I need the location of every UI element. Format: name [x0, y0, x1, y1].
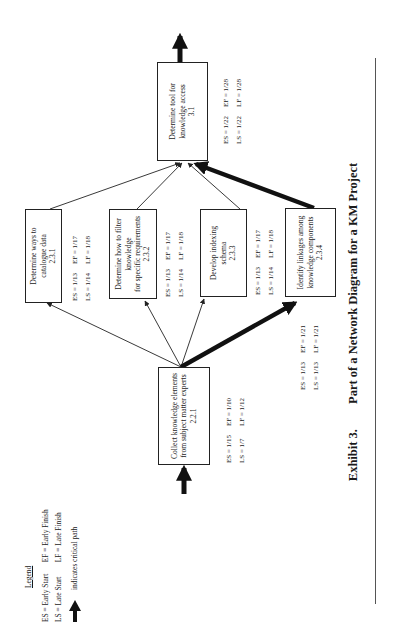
- node-2.3.3: Develop indexing schema 2.3.3: [200, 209, 247, 297]
- es-value: ES = 1/22: [220, 107, 233, 144]
- lf-value: LF = 1/21: [310, 325, 323, 353]
- node-2.3.1-dates: ES = 1/13EF = 1/17 LS = 1/14LF = 1/18: [69, 236, 95, 301]
- es-value: ES = 1/13: [69, 264, 82, 301]
- node-2.2.1-dates: ES = 1/15EF = 1/10 LS = 1/7LF = 1/12: [223, 398, 249, 463]
- legend: Legend ES = Early Start EF = Early Finis…: [22, 509, 81, 622]
- ls-value: LS = 1/22: [233, 107, 246, 144]
- node-2.2.1-code: 2.2.1: [189, 408, 198, 423]
- legend-row-start: ES = Early Start EF = Early Finish: [39, 509, 52, 622]
- node-2.3.4: Identify linkages among knowledge compon…: [285, 208, 336, 297]
- node-2.3.1-code: 2.3.1: [48, 248, 57, 263]
- node-2.3.4-code: 2.3.4: [315, 245, 324, 260]
- caption-rule: [375, 58, 376, 604]
- node-2.2.1-line-1: Collect knowledge elements: [170, 373, 179, 459]
- legend-critical-path-label: indicates critical path: [68, 527, 81, 590]
- node-2.3.4-line-2: knowledge components: [306, 217, 315, 289]
- edge-2.3.1-to-3.1: [50, 163, 180, 209]
- node-2.3.1-line-1: Determine ways to catalogue data: [29, 214, 48, 298]
- node-2.3.2-code: 2.3.2: [142, 246, 151, 261]
- es-value: ES = 1/15: [223, 426, 236, 463]
- node-3.1-code: 3.1: [187, 107, 196, 117]
- node-2.3.2-line-3: for specific requirements: [133, 216, 142, 292]
- thick-arrow-icon: [69, 600, 81, 622]
- legend-critical-path: indicates critical path: [68, 509, 81, 622]
- exhibit-caption: Exhibit 3. Part of a Network Diagram for…: [346, 0, 361, 644]
- node-2.3.3-line-1: Develop indexing schema: [209, 214, 228, 292]
- node-2.3.4-line-1: Identify linkages among: [296, 216, 305, 290]
- legend-ef: EF = Early Finish: [39, 509, 52, 562]
- node-2.2.1: Collect knowledge elements from subject …: [158, 367, 210, 465]
- ef-value: EF = 1/21: [297, 325, 310, 353]
- ef-value: EF = 1/17: [162, 232, 175, 260]
- ef-value: EF = 1/28: [220, 79, 233, 107]
- ls-value: LS = 1/14: [175, 260, 188, 297]
- ls-value: LS = 1/14: [82, 264, 95, 301]
- ef-value: EF = 1/17: [252, 230, 265, 258]
- node-2.3.1: Determine ways to catalogue data 2.3.1: [25, 209, 62, 303]
- exhibit-number: Exhibit 3.: [346, 429, 360, 481]
- es-value: ES = 1/13: [297, 353, 310, 390]
- es-value: ES = 1/13: [162, 260, 175, 297]
- node-2.3.3-dates: ES = 1/13EF = 1/17 LS = 1/14LF = 1/18: [252, 230, 278, 295]
- node-3.1-dates: ES = 1/22EF = 1/28 LS = 1/22LF = 1/28: [220, 79, 246, 144]
- node-3.1-line-2: knowledge access: [178, 84, 187, 139]
- node-3.1: Determine tool for knowledge access 3.1: [157, 62, 208, 161]
- network-diagram-page: Legend ES = Early Start EF = Early Finis…: [0, 0, 402, 644]
- lf-value: LF = 1/18: [82, 236, 95, 264]
- legend-es: ES = Early Start: [39, 564, 52, 622]
- edge-2.2.1-to-2.3.1: [47, 303, 181, 367]
- edge-2.2.1-to-2.3.4-critical: [181, 303, 295, 367]
- node-2.3.2: Determine how to filter knowledge for sp…: [109, 209, 157, 299]
- node-2.3.2-dates: ES = 1/13EF = 1/17 LS = 1/14LF = 1/18: [162, 232, 188, 297]
- legend-ls: LS = Late Start: [52, 564, 65, 622]
- ls-value: LS = 1/14: [265, 258, 278, 295]
- node-2.2.1-line-2: from subject matter experts: [179, 374, 188, 457]
- node-3.1-line-1: Determine tool for: [168, 83, 177, 140]
- lf-value: LF = 1/18: [265, 230, 278, 258]
- lf-value: LF = 1/28: [233, 79, 246, 107]
- ls-value: LS = 1/7: [236, 426, 249, 463]
- ls-value: LS = 1/13: [310, 353, 323, 390]
- legend-lf: LF = Late Finish: [52, 512, 65, 562]
- node-2.3.2-line-2: knowledge: [124, 237, 133, 270]
- lf-value: LF = 1/18: [175, 232, 188, 260]
- lf-value: LF = 1/12: [236, 398, 249, 426]
- node-2.3.3-code: 2.3.3: [228, 245, 237, 260]
- edge-2.2.1-to-2.3.2: [145, 301, 181, 367]
- es-value: ES = 1/13: [252, 258, 265, 295]
- legend-title: Legend: [22, 509, 35, 588]
- node-2.3.2-line-1: Determine how to filter: [114, 218, 123, 289]
- ef-value: EF = 1/10: [223, 398, 236, 426]
- ef-value: EF = 1/17: [69, 236, 82, 264]
- exhibit-title: Part of a Network Diagram for a KM Proje…: [346, 163, 360, 404]
- legend-row-late: LS = Late Start LF = Late Finish: [52, 509, 65, 622]
- node-2.3.4-dates: ES = 1/13EF = 1/21 LS = 1/13LF = 1/21: [297, 325, 323, 390]
